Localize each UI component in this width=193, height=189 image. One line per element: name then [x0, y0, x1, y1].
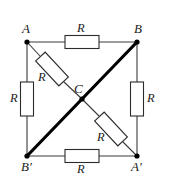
node-label-a: A [22, 22, 30, 35]
resistor-label-diagonal-lower: R [97, 131, 105, 144]
wire-bold-b-to-c [82, 42, 137, 99]
wire-diag-c-to-resistor2 [82, 99, 99, 116]
resistor-top [65, 36, 99, 49]
node-label-c: C [74, 82, 83, 95]
node-label-b: B [134, 22, 142, 35]
wire-bold-c-to-bp [27, 99, 82, 156]
node-label-a-prime: A′ [131, 160, 142, 173]
resistor-left [21, 82, 34, 116]
resistor-label-right: R [147, 92, 155, 105]
circuit-diagram-figure: A B C B′ A′ R R R R R R [0, 0, 193, 189]
resistor-label-diagonal-upper: R [38, 71, 46, 84]
wire-diag-a-to-resistor [27, 42, 40, 56]
node-label-b-prime: B′ [21, 160, 32, 173]
node-dot-bp [24, 153, 29, 158]
resistor-label-bottom: R [77, 163, 85, 176]
node-dot-c [79, 96, 84, 101]
resistor-right [131, 82, 144, 116]
resistor-label-left: R [10, 92, 18, 105]
node-dot-b [134, 39, 139, 44]
resistor-bottom [65, 150, 99, 163]
resistor-label-top: R [77, 22, 85, 35]
node-dot-ap [134, 153, 139, 158]
node-dot-a [24, 39, 29, 44]
wire-diag-resistor2-to-ap [123, 142, 137, 156]
